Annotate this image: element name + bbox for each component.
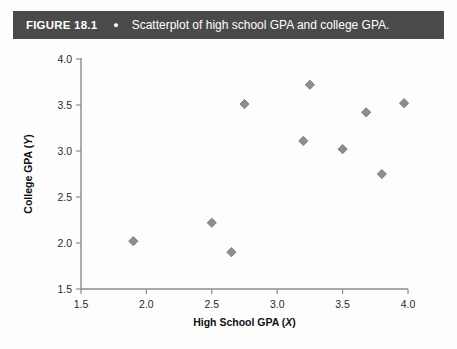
data-point-marker bbox=[362, 108, 371, 117]
x-axis-tick-label: 1.5 bbox=[74, 298, 89, 310]
data-point-marker bbox=[305, 80, 314, 89]
y-axis-tick-label: 3.5 bbox=[57, 99, 72, 111]
x-axis-tick-label: 2.0 bbox=[139, 298, 154, 310]
data-point-marker bbox=[377, 169, 386, 178]
y-axis-title: College GPA (Y) bbox=[22, 134, 34, 213]
data-point-marker bbox=[399, 99, 408, 108]
bullet-separator-icon: ● bbox=[113, 21, 118, 30]
x-axis-tick-label: 3.0 bbox=[270, 298, 285, 310]
plot-axes bbox=[81, 58, 408, 289]
data-point-marker bbox=[240, 99, 249, 108]
data-point-marker bbox=[227, 248, 236, 257]
scatterplot-area: 1.52.02.53.03.54.01.52.02.53.03.54.0High… bbox=[0, 44, 457, 344]
x-axis-tick-label: 2.5 bbox=[204, 298, 219, 310]
figure-caption: Scatterplot of high school GPA and colle… bbox=[132, 18, 390, 32]
y-axis-tick-label: 3.0 bbox=[57, 145, 72, 157]
data-point-marker bbox=[129, 237, 138, 246]
x-axis-tick-label: 3.5 bbox=[335, 298, 350, 310]
data-point-marker bbox=[299, 136, 308, 145]
scatterplot-svg: 1.52.02.53.03.54.01.52.02.53.03.54.0High… bbox=[0, 44, 457, 344]
data-point-marker bbox=[338, 145, 347, 154]
figure-number-label: FIGURE 18.1 bbox=[26, 19, 97, 31]
figure-page: FIGURE 18.1 ● Scatterplot of high school… bbox=[0, 0, 457, 349]
y-axis-tick-label: 4.0 bbox=[57, 53, 72, 65]
figure-header-bar: FIGURE 18.1 ● Scatterplot of high school… bbox=[13, 11, 444, 39]
y-axis-tick-label: 1.5 bbox=[57, 283, 72, 295]
x-axis-tick-label: 4.0 bbox=[401, 298, 416, 310]
y-axis-tick-label: 2.0 bbox=[57, 237, 72, 249]
y-axis-tick-label: 2.5 bbox=[57, 191, 72, 203]
data-point-marker bbox=[207, 218, 216, 227]
x-axis-title: High School GPA (X) bbox=[193, 316, 296, 328]
